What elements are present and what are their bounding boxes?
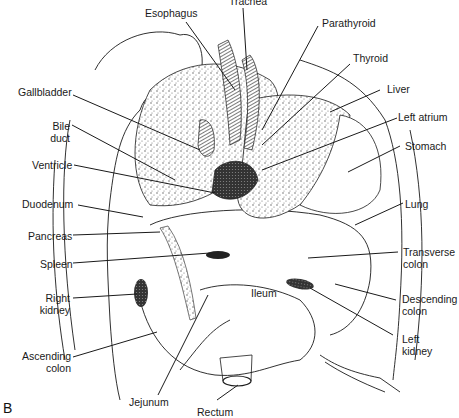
- label-ascending-colon-line1: Ascending: [14, 350, 71, 362]
- label-parathyroid: Parathyroid: [322, 17, 376, 29]
- label-left-kidney-line2: kidney: [402, 345, 432, 357]
- label-descending-colon-line1: Descending: [402, 293, 457, 305]
- panel-label: B: [3, 400, 12, 416]
- label-duodenum: Duodenum: [22, 198, 73, 210]
- label-bile-duct-line1: Bile: [40, 120, 70, 132]
- label-spleen: Spleen: [40, 258, 73, 270]
- label-descending-colon: Descending colon: [402, 293, 457, 317]
- label-transverse-colon-line2: colon: [403, 258, 455, 270]
- label-esophagus: Esophagus: [145, 7, 198, 19]
- label-transverse-colon-line1: Transverse: [403, 246, 455, 258]
- label-bile-duct-line2: duct: [40, 132, 70, 144]
- label-left-kidney-line1: Left: [402, 333, 432, 345]
- left-kidney-shape: [285, 277, 314, 292]
- label-ascending-colon-line2: colon: [14, 362, 71, 374]
- label-jejunum: Jejunum: [129, 396, 169, 408]
- label-ileum: Ileum: [251, 287, 277, 299]
- label-ascending-colon: Ascending colon: [14, 350, 71, 374]
- label-right-kidney: Right kidney: [30, 292, 70, 316]
- label-transverse-colon: Transverse colon: [403, 246, 455, 270]
- pancreas-shape: [160, 226, 196, 320]
- label-pancreas: Pancreas: [28, 230, 72, 242]
- label-ventricle: Ventricle: [32, 159, 72, 171]
- label-thyroid: Thyroid: [353, 52, 388, 64]
- rectum-shape: [223, 376, 251, 386]
- label-liver: Liver: [387, 83, 410, 95]
- label-rectum: Rectum: [197, 406, 233, 418]
- right-kidney-shape: [134, 279, 148, 307]
- label-stomach: Stomach: [405, 140, 446, 152]
- label-left-kidney: Left kidney: [402, 333, 432, 357]
- label-lung: Lung: [405, 198, 428, 210]
- label-right-kidney-line2: kidney: [30, 304, 70, 316]
- label-descending-colon-line2: colon: [402, 305, 457, 317]
- label-left-atrium: Left atrium: [398, 111, 448, 123]
- label-right-kidney-line1: Right: [30, 292, 70, 304]
- label-gallbladder: Gallbladder: [18, 86, 72, 98]
- label-trachea: Trachea: [229, 0, 267, 7]
- spleen-shape: [206, 251, 230, 259]
- label-bile-duct: Bile duct: [40, 120, 70, 144]
